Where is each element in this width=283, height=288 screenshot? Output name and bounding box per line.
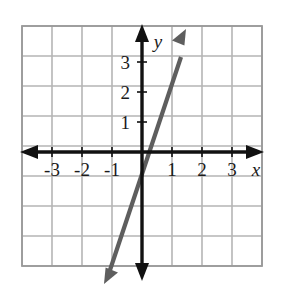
y-tick-label: 3 [121,52,131,73]
x-tick-label: 2 [197,159,207,180]
x-tick-label: -3 [44,159,60,180]
x-axis-label: x [251,159,261,180]
y-tick-label: 1 [121,112,131,133]
x-tick-label: -2 [74,159,90,180]
x-tick-label: 3 [227,159,237,180]
x-tick-label: -1 [104,159,120,180]
coordinate-plane-graph: -3 -2 -1 1 2 3 3 2 1 y x [0,0,283,288]
y-tick-labels: 3 2 1 [121,52,131,133]
x-tick-label: 1 [167,159,177,180]
graph-figure: · · · [0,0,283,288]
y-axis-label: y [152,31,163,52]
y-tick-label: 2 [121,82,131,103]
